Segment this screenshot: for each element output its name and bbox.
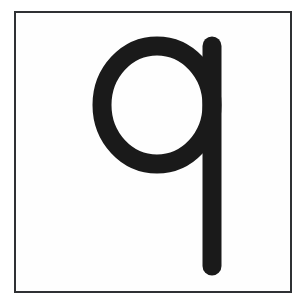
letter-bowl xyxy=(102,46,212,164)
page-root: q xyxy=(0,0,303,304)
glyph-area: q xyxy=(16,13,290,291)
letter-q-glyph xyxy=(16,13,290,291)
letter-card: q xyxy=(14,11,292,293)
